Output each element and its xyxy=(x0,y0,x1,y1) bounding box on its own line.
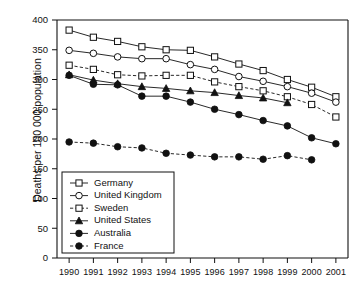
series-france xyxy=(66,139,315,163)
data-point-marker xyxy=(236,73,243,80)
data-point-marker xyxy=(260,88,266,94)
data-point-marker xyxy=(139,145,146,152)
x-tick-label: 1996 xyxy=(205,267,225,277)
data-point-marker xyxy=(115,72,121,78)
series-path xyxy=(69,75,336,143)
data-point-marker xyxy=(187,99,194,106)
legend-marker-sample xyxy=(76,243,83,250)
data-point-marker xyxy=(90,34,96,40)
legend-label: United States xyxy=(94,214,151,225)
x-tick-label: 1994 xyxy=(156,267,176,277)
chart-plot-svg: 050100150200250300350400 199019911992199… xyxy=(0,0,362,295)
legend-label: Germany xyxy=(94,177,133,188)
data-point-marker xyxy=(284,83,291,90)
x-tick-label: 1997 xyxy=(229,267,249,277)
series-germany xyxy=(66,27,339,100)
data-point-marker xyxy=(333,114,339,120)
data-point-marker xyxy=(163,72,169,78)
series-united-states xyxy=(65,71,291,106)
y-tick-label: 150 xyxy=(32,163,48,174)
data-point-marker xyxy=(114,54,121,61)
data-point-marker xyxy=(211,154,218,161)
x-tick-label: 1999 xyxy=(277,267,297,277)
data-point-marker xyxy=(114,143,121,150)
data-point-marker xyxy=(187,61,194,68)
data-point-marker xyxy=(163,55,170,62)
data-point-marker xyxy=(212,54,218,60)
y-tick-label: 0 xyxy=(43,252,48,263)
data-point-marker xyxy=(139,73,145,79)
data-point-marker xyxy=(90,140,97,147)
data-point-marker xyxy=(236,154,243,161)
data-point-marker xyxy=(115,38,121,44)
data-point-marker xyxy=(236,61,242,67)
y-tick-label: 100 xyxy=(32,193,48,204)
series-sweden xyxy=(66,62,339,120)
legend-label: Australia xyxy=(94,227,132,238)
y-tick-label: 350 xyxy=(32,44,48,55)
legend-marker-sample xyxy=(76,180,82,186)
data-point-marker xyxy=(308,135,315,142)
data-point-marker xyxy=(139,55,146,62)
data-point-marker xyxy=(333,99,340,106)
chart-legend: GermanyUnited KingdomSwedenUnited States… xyxy=(62,172,174,253)
y-tick-label: 400 xyxy=(32,14,48,25)
x-tick-label: 2000 xyxy=(302,267,322,277)
series-united-kingdom xyxy=(66,47,339,105)
x-axis-tick-group: 1990199119921993199419951996199719981999… xyxy=(59,258,346,277)
legend-label: United Kingdom xyxy=(94,189,162,200)
data-point-marker xyxy=(187,152,194,159)
data-point-marker xyxy=(66,72,73,79)
data-point-marker xyxy=(260,117,267,124)
y-tick-label: 250 xyxy=(32,104,48,115)
data-point-marker xyxy=(66,47,73,54)
data-point-marker xyxy=(66,27,72,33)
data-point-marker xyxy=(187,47,193,53)
data-point-marker xyxy=(139,44,145,50)
data-point-marker xyxy=(212,79,218,85)
y-tick-label: 200 xyxy=(32,133,48,144)
legend-label: France xyxy=(94,240,124,251)
data-point-marker xyxy=(284,123,291,130)
data-point-marker xyxy=(260,78,267,85)
data-point-marker xyxy=(284,152,291,159)
data-series-group xyxy=(65,27,339,163)
x-tick-label: 1990 xyxy=(59,267,79,277)
series-path xyxy=(69,75,287,103)
data-point-marker xyxy=(333,140,340,147)
legend-marker-sample xyxy=(76,192,83,199)
data-point-marker xyxy=(284,76,290,82)
x-tick-label: 2001 xyxy=(326,267,346,277)
x-tick-label: 1993 xyxy=(132,267,152,277)
data-point-marker xyxy=(139,93,146,100)
series-path xyxy=(69,65,336,117)
data-point-marker xyxy=(114,82,121,89)
data-point-marker xyxy=(66,139,73,146)
y-tick-label: 300 xyxy=(32,74,48,85)
y-tick-label: 50 xyxy=(37,223,48,234)
data-point-marker xyxy=(260,67,266,73)
data-point-marker xyxy=(211,106,218,113)
legend-label: Sweden xyxy=(94,202,128,213)
data-point-marker xyxy=(90,81,97,88)
legend-marker-sample xyxy=(76,230,83,237)
data-point-marker xyxy=(211,66,218,73)
data-point-marker xyxy=(90,66,96,72)
data-point-marker xyxy=(236,84,242,90)
data-point-marker xyxy=(187,72,193,78)
data-point-marker xyxy=(260,156,267,163)
data-point-marker xyxy=(163,47,169,53)
data-point-marker xyxy=(90,50,97,57)
series-path xyxy=(69,50,336,102)
y-axis-tick-group: 050100150200250300350400 xyxy=(32,14,57,263)
data-point-marker xyxy=(308,157,315,164)
x-tick-label: 1992 xyxy=(108,267,128,277)
data-point-marker xyxy=(309,101,315,107)
legend-marker-sample xyxy=(76,205,82,211)
series-path xyxy=(69,30,336,97)
data-point-marker xyxy=(308,90,315,97)
data-point-marker xyxy=(66,62,72,68)
data-point-marker xyxy=(163,93,170,100)
x-tick-label: 1998 xyxy=(253,267,273,277)
x-tick-label: 1991 xyxy=(83,267,103,277)
